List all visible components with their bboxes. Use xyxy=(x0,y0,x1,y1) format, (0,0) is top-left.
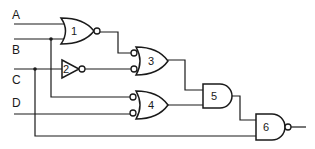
gate-6-nand: 6 xyxy=(256,114,291,140)
input-label-a: A xyxy=(12,8,20,22)
junction-b xyxy=(49,37,53,41)
gate-4-or-inverted-inputs: 4 xyxy=(130,91,168,119)
input-label-c: C xyxy=(12,73,21,87)
gate-2-not: 2 xyxy=(62,60,85,78)
input-label-b: B xyxy=(12,43,20,57)
junction-c xyxy=(33,67,37,71)
internal-wires xyxy=(85,32,306,127)
wire-g3-g5 xyxy=(168,60,203,90)
gate-2-label: 2 xyxy=(63,63,69,75)
gate-5-label: 5 xyxy=(211,90,217,102)
gate-4-label: 4 xyxy=(148,99,154,111)
gate-3-label: 3 xyxy=(148,55,154,67)
gate-1-label: 1 xyxy=(71,25,77,37)
logic-circuit-diagram: A B C D 1 xyxy=(0,0,315,149)
gate-5-and: 5 xyxy=(203,84,232,108)
gate-1-nor: 1 xyxy=(61,18,100,44)
gate-6-label: 6 xyxy=(263,121,269,133)
wire-g5-g6 xyxy=(232,96,256,120)
input-wires xyxy=(14,24,256,136)
input-label-d: D xyxy=(12,96,21,110)
gate-3-or-inverted-inputs: 3 xyxy=(131,47,168,75)
wire-g1-g3 xyxy=(100,32,131,53)
